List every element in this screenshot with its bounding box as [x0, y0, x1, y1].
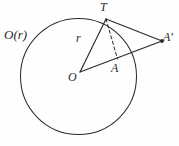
segment-t-a-prime	[106, 19, 162, 41]
label-point-t: T	[100, 1, 107, 13]
label-point-a-prime: A'	[163, 31, 173, 43]
figure-canvas	[0, 0, 179, 146]
label-circle-name: O(r)	[4, 28, 27, 41]
label-point-a: A	[111, 62, 118, 74]
segment-ta-dashed	[106, 19, 118, 59]
geometry-figure: O(r) T A' A O r	[0, 0, 179, 146]
label-radius-r: r	[76, 32, 81, 44]
label-point-o: O	[68, 71, 77, 83]
